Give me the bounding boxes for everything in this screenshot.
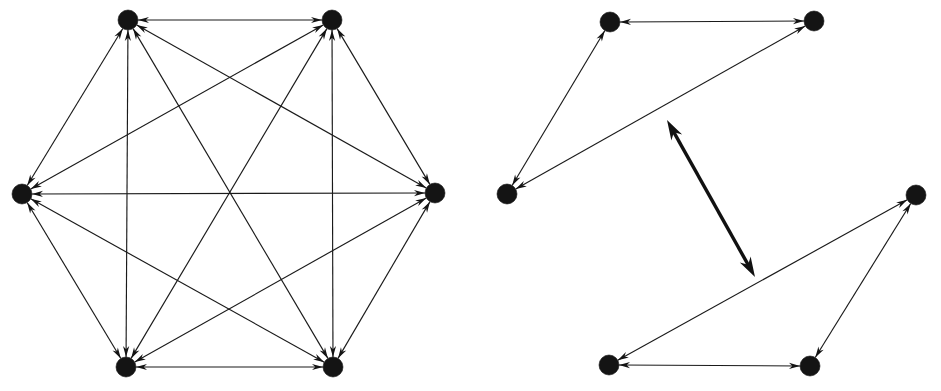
directed-graph-figure [0,0,941,391]
graph-node-R4[interactable] [906,185,926,205]
graph-node-L1[interactable] [118,10,138,30]
graph-node-L2[interactable] [322,10,342,30]
graph-node-L4[interactable] [323,357,343,377]
graph-node-R5[interactable] [599,355,619,375]
graph-node-L6[interactable] [12,184,32,204]
graph-node-L3[interactable] [425,183,445,203]
graph-node-R1[interactable] [600,12,620,32]
figure-root [0,0,941,391]
graph-node-R2[interactable] [804,11,824,31]
graph-node-R6[interactable] [800,356,820,376]
figure-background [0,0,941,391]
graph-node-R3[interactable] [497,184,517,204]
graph-node-L5[interactable] [116,357,136,377]
